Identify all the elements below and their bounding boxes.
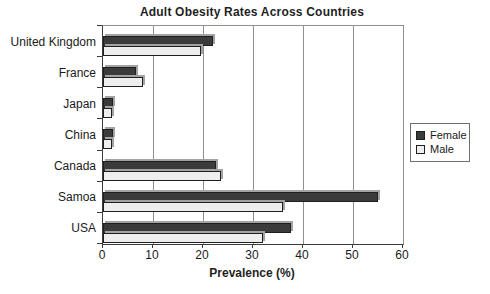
category-label-canada: Canada [0,159,96,173]
y-axis-tick [97,118,102,119]
chart-title: Adult Obesity Rates Across Countries [102,5,402,19]
y-axis-tick [97,25,102,26]
y-axis-tick [97,181,102,182]
bar-male-samoa [103,202,283,212]
category-label-united-kingdom: United Kingdom [0,35,96,49]
bar-male-china [103,139,112,149]
category-label-usa: USA [0,221,96,235]
bar-male-japan [103,108,112,118]
legend: Female Male [410,123,470,162]
bar-female-france [103,67,136,77]
gridline-50 [353,26,354,244]
x-axis-tick-label-10: 10 [135,248,169,262]
category-label-japan: Japan [0,97,96,111]
category-label-samoa: Samoa [0,190,96,204]
legend-label-male: Male [430,143,454,156]
bar-male-usa [103,233,263,243]
y-axis-tick [97,56,102,57]
x-axis-tick-label-30: 30 [235,248,269,262]
bar-female-japan [103,98,113,108]
legend-item-male: Male [416,143,464,156]
x-axis-tick-label-0: 0 [85,248,119,262]
y-axis-tick [97,212,102,213]
bar-female-united-kingdom [103,36,213,46]
x-axis-tick-label-50: 50 [335,248,369,262]
bar-male-france [103,77,143,87]
x-axis-tick-label-40: 40 [285,248,319,262]
bar-female-usa [103,223,291,233]
bar-female-samoa [103,192,378,202]
male-swatch-icon [416,145,425,154]
y-axis-tick [97,87,102,88]
x-axis-title: Prevalence (%) [102,266,402,280]
obesity-bar-chart: Adult Obesity Rates Across Countries Pre… [0,0,490,294]
category-label-france: France [0,66,96,80]
bar-female-china [103,129,113,139]
x-axis-tick-label-60: 60 [385,248,419,262]
female-swatch-icon [416,131,425,140]
bar-male-united-kingdom [103,46,201,56]
gridline-40 [303,26,304,244]
y-axis-tick [97,150,102,151]
category-label-china: China [0,128,96,142]
legend-item-female: Female [416,129,464,142]
legend-label-female: Female [430,129,467,142]
x-axis-tick-label-20: 20 [185,248,219,262]
plot-area [102,25,404,245]
bar-male-canada [103,171,221,181]
bar-female-canada [103,161,216,171]
